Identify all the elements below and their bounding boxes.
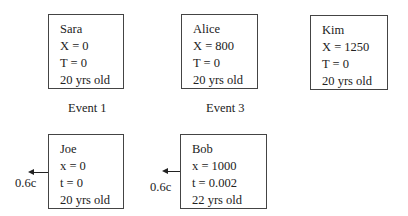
observer-time: T = 0 (322, 56, 387, 73)
event-3-label: Event 3 (206, 101, 245, 116)
observer-position: X = 1250 (322, 39, 387, 56)
observer-position: X = 0 (60, 38, 123, 55)
observer-box-joe: Joe x = 0 t = 0 20 yrs old (48, 134, 124, 209)
observer-name: Bob (192, 141, 266, 158)
velocity-arrow-joe (33, 172, 48, 173)
observer-time: t = 0 (60, 175, 123, 192)
observer-position: x = 0 (60, 158, 123, 175)
observer-box-kim: Kim X = 1250 T = 0 20 yrs old (310, 15, 388, 90)
observer-box-sara: Sara X = 0 T = 0 20 yrs old (48, 14, 124, 89)
observer-position: x = 1000 (192, 158, 266, 175)
observer-name: Alice (193, 21, 257, 38)
observer-time: T = 0 (193, 55, 257, 72)
observer-box-bob: Bob x = 1000 t = 0.002 22 yrs old (180, 134, 267, 209)
observer-age: 20 yrs old (60, 192, 123, 209)
observer-age: 22 yrs old (192, 192, 266, 209)
observer-age: 20 yrs old (60, 72, 123, 89)
observer-name: Kim (322, 22, 387, 39)
observer-position: X = 800 (193, 38, 257, 55)
observer-age: 20 yrs old (322, 73, 387, 90)
observer-box-alice: Alice X = 800 T = 0 20 yrs old (181, 14, 258, 89)
observer-time: T = 0 (60, 55, 123, 72)
observer-time: t = 0.002 (192, 175, 266, 192)
observer-age: 20 yrs old (193, 72, 257, 89)
observer-name: Sara (60, 21, 123, 38)
event-1-label: Event 1 (68, 101, 107, 116)
velocity-label-bob: 0.6c (150, 180, 171, 195)
velocity-label-joe: 0.6c (15, 176, 36, 191)
velocity-arrow-bob (167, 171, 180, 172)
observer-name: Joe (60, 141, 123, 158)
